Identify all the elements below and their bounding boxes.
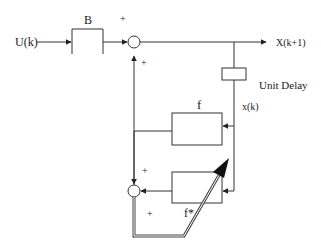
- block-b-label: B: [84, 13, 92, 27]
- sum-top-sign-1: +: [120, 13, 126, 24]
- sum-bottom-sign-2: +: [147, 208, 153, 219]
- block-f: [172, 113, 222, 145]
- state-label: x(k): [242, 101, 259, 113]
- summing-junction-bottom: [128, 185, 140, 197]
- sum-top-sign-2: +: [141, 57, 147, 68]
- block-f-label: f: [197, 97, 202, 112]
- output-label: X(k+1): [276, 37, 306, 49]
- input-label: U(k): [15, 35, 38, 49]
- sum-bottom-sign-1: +: [142, 165, 148, 176]
- block-diagram: U(k) B + + X(k+1) Unit Delay x(k) f + + …: [0, 0, 321, 248]
- block-f-star: [172, 172, 222, 203]
- summing-junction-top: [128, 36, 140, 48]
- unit-delay-label: Unit Delay: [259, 79, 308, 91]
- block-f-star-label: f*: [184, 206, 194, 220]
- block-b: [72, 29, 103, 54]
- unit-delay-block: [222, 68, 246, 80]
